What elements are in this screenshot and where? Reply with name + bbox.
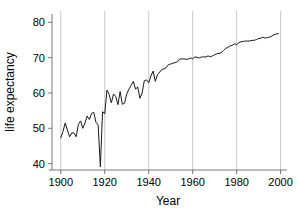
x-tick-label: 1960	[180, 176, 204, 188]
x-tick-labels: 190019201940196019802000	[49, 176, 293, 188]
y-tick-label: 40	[33, 158, 45, 170]
x-tick-label: 1920	[93, 176, 117, 188]
x-tick-label: 1940	[136, 176, 160, 188]
y-tick-labels: 4050607080	[33, 16, 45, 169]
x-axis-title: Year	[156, 194, 180, 208]
y-tick-label: 60	[33, 87, 45, 99]
life-expectancy-line	[61, 34, 279, 167]
y-tick-label: 50	[33, 122, 45, 134]
y-axis-title: life expectancy	[3, 52, 17, 131]
axis-lines	[49, 14, 287, 170]
vertical-gridlines	[61, 11, 281, 170]
life-expectancy-chart-figure: 190019201940196019802000 4050607080 Year…	[0, 0, 303, 209]
chart-plot-svg: 190019201940196019802000 4050607080 Year…	[0, 0, 303, 209]
tick-marks	[48, 22, 281, 174]
x-tick-label: 2000	[268, 176, 292, 188]
y-tick-label: 80	[33, 16, 45, 28]
y-tick-label: 70	[33, 52, 45, 64]
x-tick-label: 1980	[224, 176, 248, 188]
x-tick-label: 1900	[49, 176, 73, 188]
